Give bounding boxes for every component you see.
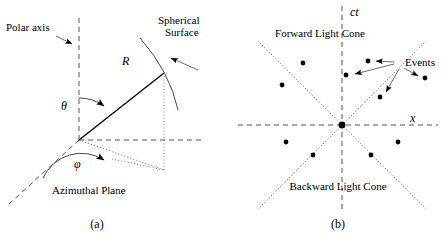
spherical-surface-arc — [140, 38, 178, 110]
events-label: Events — [405, 56, 435, 68]
events-leader-arrow-1 — [376, 61, 394, 62]
figure-svg: Polar axis Spherical Surface R θ φ Azimu… — [0, 0, 442, 240]
x-axis-label: x — [409, 111, 416, 125]
panel-b-group: ct x Forward Light Cone Backward Light C… — [238, 5, 438, 231]
lightcone-upper-left-line — [258, 41, 342, 125]
panel-a-group: Polar axis Spherical Surface R θ φ Azimu… — [6, 14, 205, 231]
figure-root: Polar axis Spherical Surface R θ φ Azimu… — [0, 0, 442, 240]
events-leader-arrow-4 — [404, 68, 418, 76]
spherical-surface-leader-arrow — [171, 58, 198, 70]
forward-light-cone-label: Forward Light Cone — [275, 27, 365, 39]
event-dot — [369, 153, 374, 158]
backward-light-cone-label: Backward Light Cone — [289, 180, 386, 192]
panel-a-caption: (a) — [90, 217, 103, 231]
projection-plane-dotted — [112, 159, 164, 170]
polar-axis-leader-arrow — [56, 36, 72, 44]
spherical-surface-label-line1: Spherical — [158, 14, 200, 26]
polar-axis-label: Polar axis — [6, 21, 50, 33]
theta-angle-arc — [79, 98, 104, 106]
event-dot — [301, 61, 306, 66]
events-leader-arrow-2 — [355, 64, 394, 74]
event-dot — [366, 59, 371, 64]
origin-event-dot — [339, 122, 346, 129]
projection-azimuth-dotted — [79, 140, 164, 170]
event-dot — [423, 76, 428, 81]
phi-label: φ — [74, 157, 81, 171]
radius-label: R — [121, 54, 130, 68]
spherical-surface-label-line2: Surface — [165, 26, 199, 38]
event-dot — [280, 83, 285, 88]
theta-label: θ — [61, 99, 67, 113]
azimuthal-plane-label: Azimuthal Plane — [52, 184, 126, 196]
event-dot — [378, 95, 383, 100]
event-dot — [311, 153, 316, 158]
lightcone-lower-left-line — [258, 125, 342, 209]
events-leader-arrow-3 — [386, 69, 399, 92]
radius-vector-line — [79, 73, 164, 140]
event-dot — [396, 140, 401, 145]
panel-b-caption: (b) — [331, 217, 345, 231]
event-dot — [344, 73, 349, 78]
ct-axis-label: ct — [350, 5, 359, 19]
lightcone-lower-right-line — [342, 125, 426, 209]
event-dot — [284, 140, 289, 145]
